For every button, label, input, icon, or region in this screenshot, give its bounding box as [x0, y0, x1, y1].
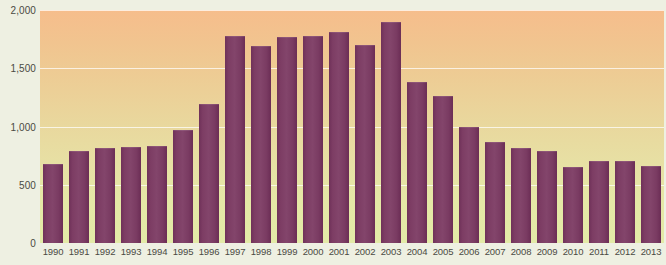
x-axis-tick-label: 2008 [508, 246, 534, 257]
y-axis-tick-label: 1,500 [0, 63, 36, 74]
bar [43, 164, 62, 243]
bar-chart: 05001,0001,5002,000 19901991199219931994… [0, 0, 666, 265]
bar [511, 148, 530, 243]
y-axis: 05001,0001,5002,000 [0, 0, 36, 265]
x-axis: 1990199119921993199419951996199719981999… [40, 246, 664, 262]
x-axis-tick-label: 1997 [222, 246, 248, 257]
x-axis-tick-label: 2004 [404, 246, 430, 257]
x-axis-tick-label: 2009 [534, 246, 560, 257]
bar [121, 147, 140, 243]
bar [537, 151, 556, 243]
x-axis-tick-label: 1995 [170, 246, 196, 257]
y-axis-tick-label: 0 [0, 238, 36, 249]
x-axis-tick-label: 1994 [144, 246, 170, 257]
x-axis-tick-label: 2010 [560, 246, 586, 257]
bar [355, 45, 374, 243]
x-axis-tick-label: 2013 [638, 246, 664, 257]
bar [69, 151, 88, 243]
bar [147, 146, 166, 243]
y-axis-tick-label: 500 [0, 179, 36, 190]
x-axis-tick-label: 1999 [274, 246, 300, 257]
bar [95, 148, 114, 243]
x-axis-tick-label: 2005 [430, 246, 456, 257]
x-axis-tick-label: 2000 [300, 246, 326, 257]
bars-layer [40, 10, 664, 243]
x-axis-tick-label: 1990 [40, 246, 66, 257]
bar [277, 37, 296, 243]
x-axis-tick-label: 2002 [352, 246, 378, 257]
y-axis-tick-label: 1,000 [0, 121, 36, 132]
x-axis-tick-label: 1993 [118, 246, 144, 257]
x-axis-tick-label: 1998 [248, 246, 274, 257]
bar [459, 127, 478, 244]
y-axis-tick-label: 2,000 [0, 5, 36, 16]
bar [199, 104, 218, 243]
x-axis-tick-label: 2011 [586, 246, 612, 257]
bar [433, 96, 452, 243]
bar [303, 36, 322, 243]
x-axis-tick-label: 1996 [196, 246, 222, 257]
bar [563, 167, 582, 243]
bar [381, 22, 400, 243]
bar [225, 36, 244, 243]
x-axis-tick-label: 2012 [612, 246, 638, 257]
bar [589, 161, 608, 243]
bar [407, 82, 426, 243]
bar [251, 46, 270, 243]
bar [485, 142, 504, 243]
bar [641, 166, 660, 243]
x-axis-tick-label: 2007 [482, 246, 508, 257]
x-axis-tick-label: 1992 [92, 246, 118, 257]
x-axis-tick-label: 1991 [66, 246, 92, 257]
bar [173, 130, 192, 243]
bar [329, 32, 348, 243]
bar [615, 161, 634, 243]
x-axis-tick-label: 2003 [378, 246, 404, 257]
x-axis-tick-label: 2006 [456, 246, 482, 257]
x-axis-tick-label: 2001 [326, 246, 352, 257]
